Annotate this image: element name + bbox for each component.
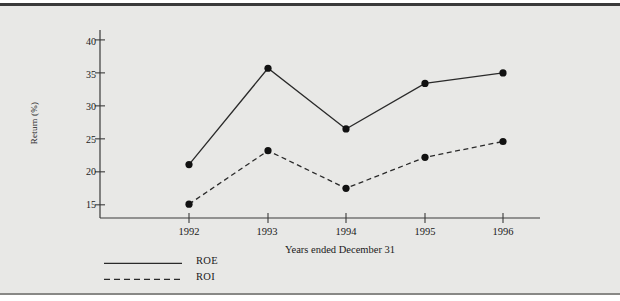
y-tick-label-15: 15 [66, 199, 96, 210]
y-tick-label-40: 40 [66, 36, 96, 47]
x-tick-label-1996: 1996 [473, 226, 533, 237]
y-axis-label: Return (%) [29, 83, 39, 163]
legend-label-roe: ROE [196, 255, 218, 266]
legend-swatch-solid-line [104, 262, 182, 264]
x-axis-label: Years ended December 31 [160, 244, 520, 255]
x-tick-label-1993: 1993 [237, 226, 297, 237]
plot-area: Return (%) Years ended December 31 15 20… [0, 0, 620, 301]
x-tick-label-1994: 1994 [316, 226, 376, 237]
chart-figure: Return (%) Years ended December 31 15 20… [0, 0, 620, 301]
x-tick-label-1992: 1992 [159, 226, 219, 237]
legend-label-roi: ROI [196, 271, 215, 282]
y-tick-label-30: 30 [66, 101, 96, 112]
legend-swatch-dashed-line [104, 278, 182, 280]
x-tick-label-1995: 1995 [395, 226, 455, 237]
y-tick-label-35: 35 [66, 69, 96, 80]
y-tick-label-20: 20 [66, 166, 96, 177]
y-tick-label-25: 25 [66, 134, 96, 145]
